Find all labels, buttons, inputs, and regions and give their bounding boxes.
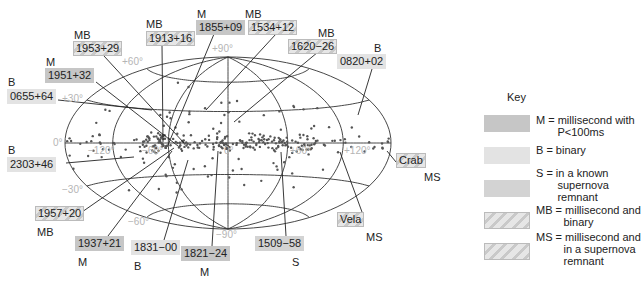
lon-label-minus120: −120° [88, 145, 115, 156]
pulsar-label-0655: 0655+64 [7, 89, 56, 104]
lat-label-minus90: −90° [216, 229, 237, 240]
lon-label-0: 0° [224, 145, 234, 156]
pulsar-label-1831: 1831−00 [131, 240, 180, 255]
pulsar-label-1534: 1534+12 [248, 20, 297, 35]
lon-label-minus60: −60° [142, 145, 163, 156]
key-text-m: M = millisecond with P<100ms [536, 114, 635, 138]
key-title: Key [507, 91, 526, 103]
lat-label-0: 0° [53, 137, 63, 148]
swatch-s [484, 180, 530, 197]
lat-label-minus30: −30° [62, 184, 83, 195]
key-text-s: S = in a known supernova remnant [536, 167, 609, 203]
class-1821: M [200, 266, 209, 279]
pulsar-label-2303: 2303+46 [7, 157, 56, 172]
pulsar-label-1951: 1951+32 [45, 68, 94, 83]
key-text-b: B = binary [536, 144, 586, 156]
lat-label-plus30: +30° [62, 93, 83, 104]
pulsar-label-1509: 1509−58 [255, 236, 304, 251]
lon-label-plus120: +120° [344, 145, 371, 156]
class-vela: MS [366, 231, 383, 244]
lat-label-plus90: +90° [212, 43, 233, 54]
class-1937: M [78, 256, 87, 269]
key-text-ms: MS = millisecond and in a supernova remn… [536, 231, 641, 267]
class-1831: B [134, 260, 141, 273]
class-2303: B [8, 144, 15, 157]
pulsar-label-0820: 0820+02 [337, 54, 386, 69]
pulsar-label-1937: 1937+21 [75, 236, 124, 251]
pulsar-label-1957: 1957+20 [35, 206, 84, 221]
class-1957: MB [37, 226, 54, 239]
class-0655: B [8, 76, 15, 89]
lat-label-plus60: +60° [122, 56, 143, 67]
swatch-m [484, 115, 530, 132]
pulsar-label-1821: 1821−24 [181, 246, 230, 261]
lon-label-plus60: +60° [290, 145, 311, 156]
key-text-mb: MB = millisecond and binary [536, 204, 641, 228]
pulsar-label-1620: 1620−26 [288, 39, 337, 54]
class-crab: MS [424, 171, 441, 184]
pulsar-label-1913: 1913+16 [146, 31, 195, 46]
swatch-b [484, 147, 530, 164]
pulsar-label-1953: 1953+29 [73, 41, 122, 56]
swatch-ms [484, 243, 530, 260]
pulsar-label-vela: Vela [337, 212, 364, 227]
class-1913: MB [146, 18, 163, 31]
class-1509: S [292, 256, 299, 269]
pulsar-label-crab: Crab [396, 153, 426, 168]
pulsar-label-1855: 1855+09 [196, 20, 245, 35]
lat-label-minus60: −60° [128, 216, 149, 227]
swatch-mb [484, 212, 530, 229]
